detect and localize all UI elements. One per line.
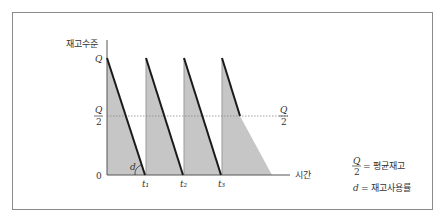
right-half-den: 2 (281, 117, 287, 127)
legend-usage-text: = 재고사용률 (361, 183, 411, 193)
y-tick-half-num: Q (95, 105, 103, 115)
y-tick-half-den: 2 (96, 117, 102, 127)
x-axis-label: 시간 (295, 170, 311, 180)
y-tick-q: Q (95, 54, 103, 64)
slope-label: d (130, 162, 136, 172)
legend-avg-num: Q (353, 156, 361, 166)
right-half-num: Q (280, 105, 288, 115)
time-tick-t2: t₂ (180, 179, 188, 189)
legend-avg-den: 2 (354, 167, 360, 177)
y-tick-zero: 0 (96, 171, 102, 181)
inventory-sawtooth-diagram: 재고수준 Q Q 2 0 Q 2 d t₁ t₂ t₃ 시간 Q 2 = 평균재… (0, 0, 446, 222)
legend-usage-symbol: d (353, 183, 359, 193)
time-tick-t1: t₁ (142, 179, 149, 189)
legend-avg-text: = 평균재고 (363, 161, 405, 171)
time-tick-t3: t₃ (218, 179, 226, 189)
legend: Q 2 = 평균재고 d = 재고사용률 (352, 156, 411, 193)
y-axis-label: 재고수준 (66, 39, 98, 49)
